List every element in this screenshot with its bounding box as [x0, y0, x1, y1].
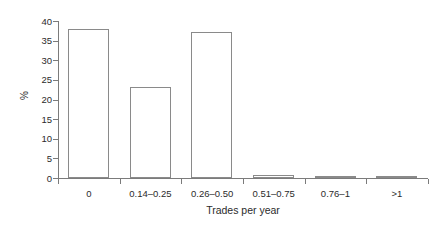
y-tick-label-10: 10 [41, 134, 52, 144]
y-tick-label-25: 25 [41, 75, 52, 85]
plot-area: 0 5 10 15 20 25 30 35 40 % 0 0.14–0.25 0… [0, 0, 444, 228]
y-tick-10 [53, 139, 58, 140]
y-tick-25 [53, 80, 58, 81]
y-tick-15 [53, 119, 58, 120]
bar-4 [315, 176, 356, 178]
y-tick-35 [53, 41, 58, 42]
x-tick-label-0: 0 [58, 188, 120, 199]
y-tick-5 [53, 158, 58, 159]
bar-0 [68, 29, 109, 178]
y-tick-label-0: 0 [47, 174, 52, 184]
y-axis-line [58, 21, 59, 179]
y-tick-label-5: 5 [47, 154, 52, 164]
x-tick-b4 [305, 179, 306, 184]
x-tick-label-4: 0.76–1 [305, 188, 367, 199]
bar-3 [253, 175, 294, 178]
y-tick-20 [53, 100, 58, 101]
x-tick-b5 [366, 179, 367, 184]
y-tick-label-35: 35 [41, 36, 52, 46]
bar-2 [191, 32, 232, 178]
y-tick-label-20: 20 [41, 95, 52, 105]
bar-5 [376, 176, 417, 178]
x-tick-b1 [120, 179, 121, 184]
x-tick-label-3: 0.51–0.75 [243, 188, 305, 199]
chart-figure: 0 5 10 15 20 25 30 35 40 % 0 0.14–0.25 0… [0, 0, 444, 228]
y-tick-label-15: 15 [41, 115, 52, 125]
x-axis-title: Trades per year [58, 204, 428, 216]
x-tick-label-1: 0.14–0.25 [120, 188, 182, 199]
x-tick-b6 [428, 179, 429, 184]
y-tick-40 [53, 21, 58, 22]
y-tick-30 [53, 60, 58, 61]
y-tick-label-40: 40 [41, 17, 52, 27]
y-tick-label-30: 30 [41, 56, 52, 66]
x-tick-label-5: >1 [366, 188, 428, 199]
x-tick-b3 [243, 179, 244, 184]
x-tick-b2 [181, 179, 182, 184]
bar-1 [130, 87, 171, 179]
y-axis-title: % [19, 86, 30, 106]
x-tick-b0 [58, 179, 59, 184]
x-tick-label-2: 0.26–0.50 [181, 188, 243, 199]
